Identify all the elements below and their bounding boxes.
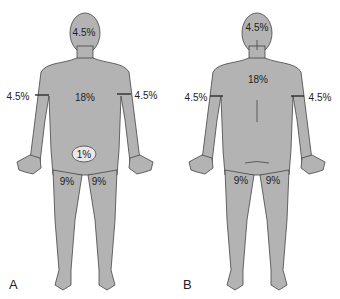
label-a-genitalia: 1% [77, 149, 91, 160]
panel-label-a: A [9, 277, 18, 292]
label-b-head: 4.5% [246, 22, 269, 33]
label-b-right-arm: 4.5% [185, 92, 208, 103]
label-a-right-arm: 4.5% [7, 91, 30, 102]
label-a-left-arm: 4.5% [135, 90, 158, 101]
label-b-left-leg: 9% [266, 175, 280, 186]
body-diagram [0, 0, 340, 299]
label-a-left-leg: 9% [92, 176, 106, 187]
label-b-left-arm: 4.5% [309, 92, 332, 103]
panel-label-b: B [183, 277, 192, 292]
label-a-head: 4.5% [73, 27, 96, 38]
label-a-trunk: 18% [75, 92, 95, 103]
label-b-trunk: 18% [248, 74, 268, 85]
label-b-right-leg: 9% [234, 175, 248, 186]
figure-posterior [189, 13, 325, 290]
label-a-right-leg: 9% [60, 176, 74, 187]
